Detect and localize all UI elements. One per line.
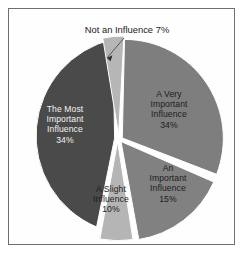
pie-slice-the-most-important-influence[interactable]	[36, 39, 115, 227]
not-an-influence-callout-label: Not an Influence 7%	[42, 24, 212, 35]
figure-screenshot: Not an Influence 7% A Very Important Inf…	[0, 0, 247, 257]
pie-chart-canvas	[0, 0, 247, 257]
pie-chart: Not an Influence 7% A Very Important Inf…	[0, 0, 247, 257]
